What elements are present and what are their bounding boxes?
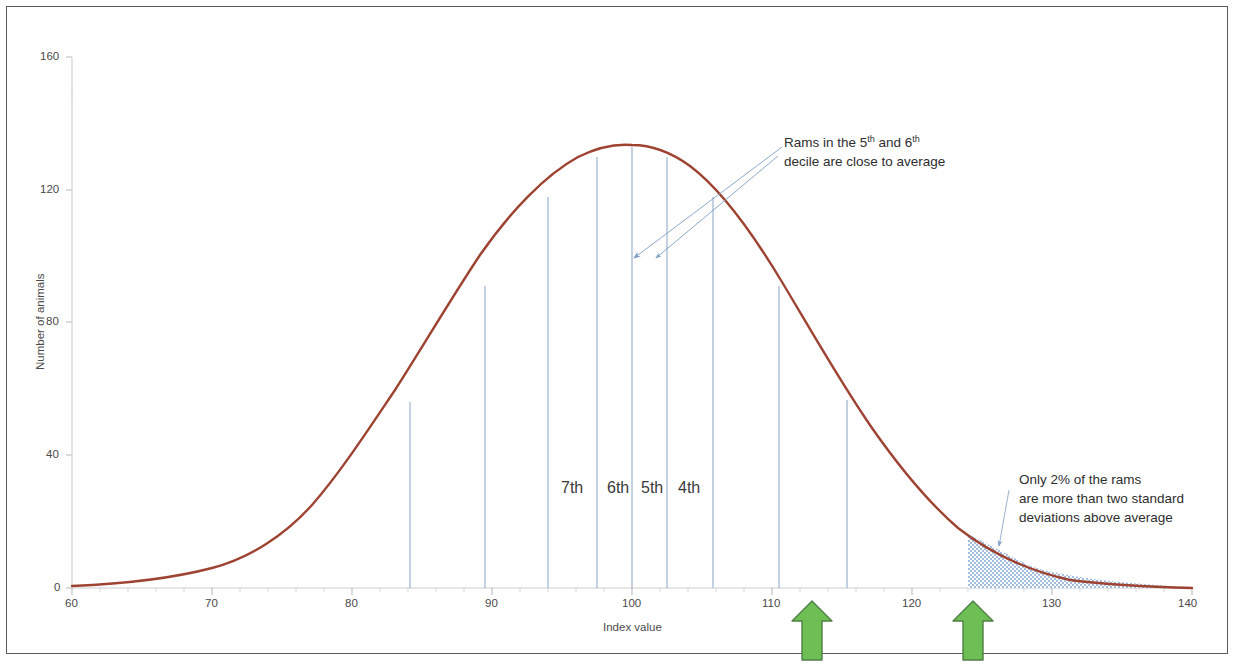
- x-tick-label-70: 70: [205, 597, 218, 609]
- x-axis: [72, 588, 1192, 595]
- chart-page: 160 120 80 40 0 Number of animals 60 70 …: [0, 0, 1238, 672]
- tail-annotation-line3: deviations above average: [1019, 510, 1173, 525]
- decile-label-6th: 6th: [607, 479, 629, 497]
- x-tick-label-90: 90: [485, 597, 498, 609]
- y-tick-label-0: 0: [54, 581, 60, 593]
- tail-annotation-line1: Only 2% of the rams: [1019, 472, 1141, 487]
- y-tick-label-80: 80: [46, 315, 59, 327]
- x-tick-label-80: 80: [345, 597, 358, 609]
- y-axis-title: Number of animals: [34, 273, 46, 370]
- decile-annotation-sup2: th: [912, 134, 920, 144]
- marker-arrow-110: [792, 601, 832, 660]
- decile-annotation-sup1: th: [867, 134, 875, 144]
- x-tick-label-110: 110: [762, 597, 780, 609]
- tail-annotation: Only 2% of the rams are more than two st…: [1019, 470, 1234, 527]
- y-tick-label-160: 160: [40, 50, 59, 62]
- decile-label-7th: 7th: [561, 479, 583, 497]
- x-tick-label-130: 130: [1042, 597, 1061, 609]
- tail-shaded-region: [968, 534, 1192, 588]
- x-tick-label-100: 100: [622, 597, 641, 609]
- y-tick-label-120: 120: [40, 183, 59, 195]
- x-tick-label-140: 140: [1178, 597, 1197, 609]
- decile-annotation: Rams in the 5th and 6th decile are close…: [784, 133, 984, 171]
- decile-label-4th: 4th: [678, 479, 700, 497]
- y-tick-label-40: 40: [46, 448, 59, 460]
- x-tick-label-120: 120: [902, 597, 921, 609]
- decile-annotation-line1-pre: Rams in the 5: [784, 135, 867, 150]
- decile-label-5th: 5th: [641, 479, 663, 497]
- decile-annotation-line2: decile are close to average: [784, 154, 945, 169]
- decile-annotation-line1: Rams in the 5th and 6th: [784, 135, 920, 150]
- decile-lines: [410, 147, 847, 588]
- x-axis-title: Index value: [603, 621, 662, 633]
- marker-arrow-124: [953, 601, 993, 660]
- decile-annotation-leaders: [634, 147, 782, 258]
- tail-annotation-line2: are more than two standard: [1019, 491, 1184, 506]
- tail-annotation-leader: [999, 490, 1009, 546]
- y-axis: [66, 57, 72, 588]
- x-tick-label-60: 60: [65, 597, 78, 609]
- normal-distribution-chart: [0, 0, 1238, 672]
- decile-annotation-line1-mid: and 6: [875, 135, 913, 150]
